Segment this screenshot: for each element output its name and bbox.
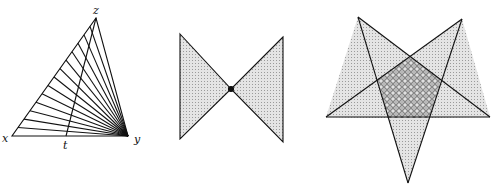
label-x: x [2,132,9,145]
bowtie-center-point [229,87,234,92]
pentagram [326,17,490,183]
bowtie [180,34,283,142]
fan-line [60,69,128,136]
fan-lines [18,26,128,136]
label-t: t [63,139,68,152]
bowtie-left-triangle [180,34,231,139]
fan-triangle [12,18,128,136]
bowtie-right-triangle [231,37,283,142]
label-z: z [92,4,99,17]
fan-line [84,35,128,136]
fan-line [24,119,128,136]
fan-line [54,77,128,136]
fan-line [78,43,128,136]
figure-canvas: x y z t [0,0,500,189]
label-y: y [133,133,141,146]
